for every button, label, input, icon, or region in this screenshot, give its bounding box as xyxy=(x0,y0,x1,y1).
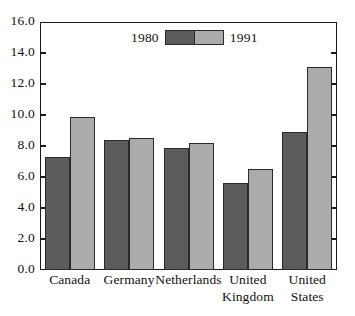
legend-swatches xyxy=(165,30,224,45)
x-axis-label-united-states: United States xyxy=(272,272,343,305)
bar-chart-figure: 0.02.04.06.08.010.012.014.016.0 CanadaGe… xyxy=(0,0,355,316)
y-axis-tick-label: 14.0 xyxy=(11,44,35,60)
y-axis-tick-label: 12.0 xyxy=(11,75,35,91)
y-axis-tick-mark xyxy=(40,52,46,53)
legend-swatch-1980 xyxy=(166,31,195,44)
bar-united-kingdom-1980 xyxy=(223,183,248,270)
y-axis-tick-mark xyxy=(40,83,46,84)
bar-canada-1991 xyxy=(70,117,95,270)
y-axis-tick-mark xyxy=(40,145,46,146)
y-axis-tick-label: 4.0 xyxy=(18,199,35,215)
y-axis-tick-label: 2.0 xyxy=(18,230,35,246)
y-axis-tick-label: 8.0 xyxy=(18,137,35,153)
bar-united-kingdom-1991 xyxy=(248,169,273,270)
y-axis-tick-label: 6.0 xyxy=(18,168,35,184)
bar-canada-1980 xyxy=(45,157,70,270)
y-axis-tick-mark-right xyxy=(331,52,337,53)
legend-label-1991: 1991 xyxy=(230,30,258,46)
legend-label-1980: 1980 xyxy=(131,30,159,46)
chart-legend: 1980 1991 xyxy=(131,28,258,47)
bar-united-states-1980 xyxy=(282,132,307,270)
legend-swatch-1991 xyxy=(195,31,223,44)
y-axis-tick-label: 0.0 xyxy=(18,261,35,277)
bar-united-states-1991 xyxy=(307,67,332,270)
y-axis-tick-mark xyxy=(40,114,46,115)
bar-netherlands-1980 xyxy=(164,148,189,270)
bar-netherlands-1991 xyxy=(189,143,214,270)
y-axis-tick-label: 10.0 xyxy=(11,106,35,122)
y-axis-tick-label: 16.0 xyxy=(11,13,35,29)
bar-germany-1991 xyxy=(129,138,154,270)
bar-germany-1980 xyxy=(104,140,129,270)
